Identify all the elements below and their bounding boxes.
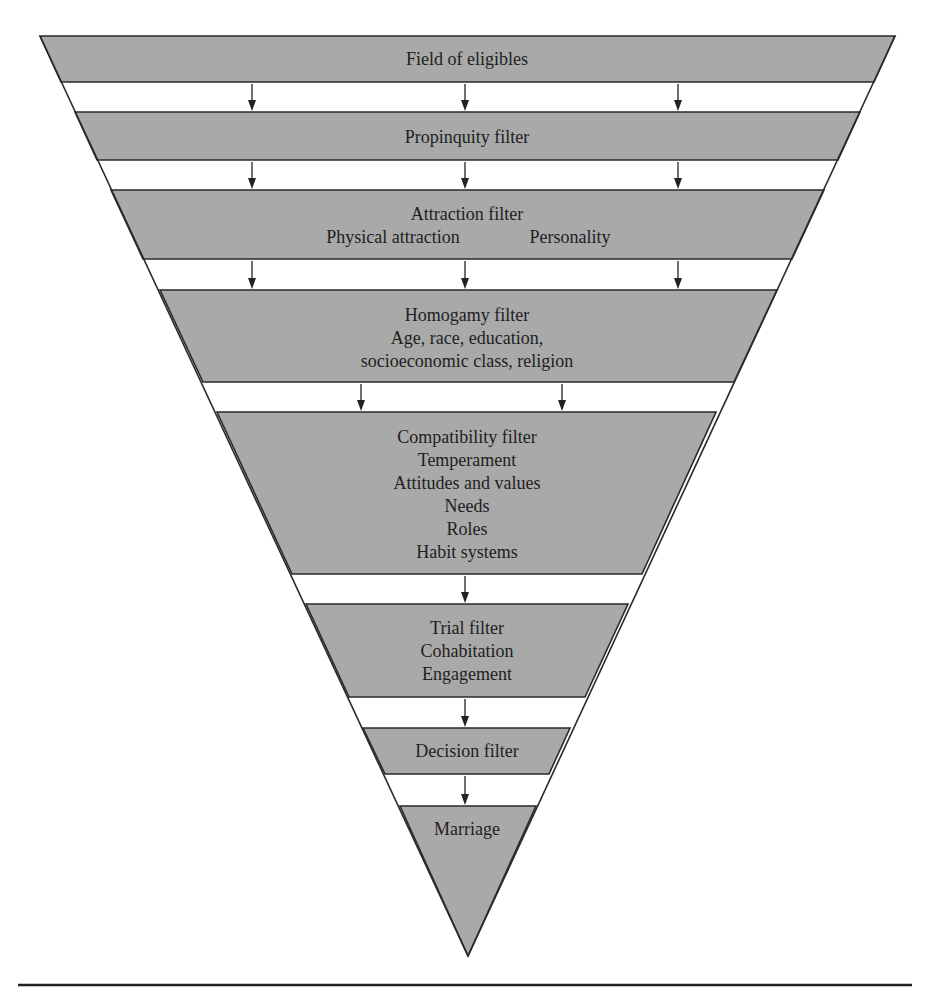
compatibility-line-5: Habit systems (416, 542, 518, 562)
gap-2 (75, 160, 860, 190)
compatibility-line-2: Attitudes and values (394, 473, 541, 493)
stage-title-attraction: Attraction filter (411, 204, 523, 224)
compatibility-line-4: Roles (446, 519, 487, 539)
stage-title-homogamy: Homogamy filter (405, 305, 529, 325)
stage-attraction-filter (111, 190, 824, 259)
trial-line-2: Engagement (422, 664, 512, 684)
gap-7 (361, 774, 574, 806)
stage-title-field: Field of eligibles (406, 49, 528, 69)
gap-3 (121, 259, 814, 290)
stage-title-trial: Trial filter (430, 618, 504, 638)
compatibility-line-1: Temperament (418, 450, 517, 470)
attraction-item-physical: Physical attraction (326, 227, 459, 247)
stage-title-propinquity: Propinquity filter (405, 127, 530, 147)
stage-title-compatibility: Compatibility filter (397, 427, 536, 447)
compatibility-line-3: Needs (445, 496, 490, 516)
homogamy-line-2: socioeconomic class, religion (361, 351, 573, 371)
gap-4 (178, 382, 756, 412)
gap-6 (324, 697, 588, 728)
attraction-item-personality: Personality (530, 227, 611, 247)
gap-1 (61, 82, 874, 112)
stage-title-decision: Decision filter (415, 741, 518, 761)
filter-funnel-diagram: Field of eligibles Propinquity filter At… (0, 0, 930, 1002)
trial-line-1: Cohabitation (421, 641, 514, 661)
homogamy-line-1: Age, race, education, (391, 328, 543, 348)
gap-5 (267, 574, 667, 604)
stage-title-marriage: Marriage (434, 819, 500, 839)
